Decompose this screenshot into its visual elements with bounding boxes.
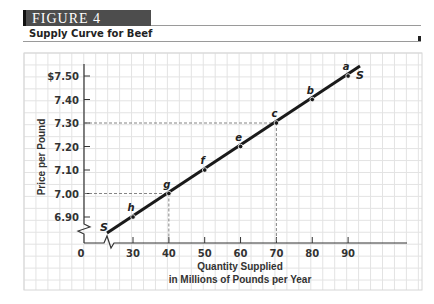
data-point-a — [346, 74, 351, 79]
curve-label-lower: S — [100, 221, 108, 234]
y-tick-label: 7.00 — [54, 189, 79, 200]
point-label-b: b — [307, 85, 314, 96]
point-label-e: e — [235, 132, 242, 143]
point-label-g: g — [163, 179, 170, 190]
point-label-h: h — [127, 202, 134, 213]
y-tick-label: 7.10 — [54, 165, 79, 176]
x-tick-label: 60 — [234, 248, 248, 259]
y-axis-title: Price per Pound — [36, 119, 47, 196]
supply-chart: hgfecbaSS $7.507.407.307.207.107.006.903… — [0, 0, 434, 304]
x-axis-title-line2: in Millions of Pounds per Year — [169, 274, 312, 285]
y-tick-label: 7.20 — [54, 142, 79, 153]
y-tick-label: 6.90 — [54, 212, 79, 223]
y-tick-label: 7.40 — [54, 95, 79, 106]
x-origin-label: 0 — [78, 248, 85, 259]
y-axis — [78, 64, 90, 243]
y-tick-label: $7.50 — [47, 71, 79, 82]
x-tick-label: 30 — [126, 248, 140, 259]
point-label-c: c — [271, 108, 277, 119]
x-tick-label: 90 — [341, 248, 355, 259]
curve-label-upper: S — [356, 69, 364, 82]
x-tick-label: 80 — [305, 248, 319, 259]
data-point-g — [167, 191, 172, 196]
x-tick-label: 70 — [269, 248, 283, 259]
data-point-c — [274, 121, 279, 126]
data-point-e — [238, 144, 243, 149]
data-point-b — [310, 97, 315, 102]
data-point-h — [131, 215, 136, 220]
x-axis-title-line1: Quantity Supplied — [197, 261, 283, 272]
point-label-a: a — [343, 61, 350, 72]
x-tick-label: 40 — [162, 248, 176, 259]
y-tick-label: 7.30 — [54, 118, 79, 129]
data-point-f — [202, 168, 207, 173]
x-tick-label: 50 — [198, 248, 212, 259]
